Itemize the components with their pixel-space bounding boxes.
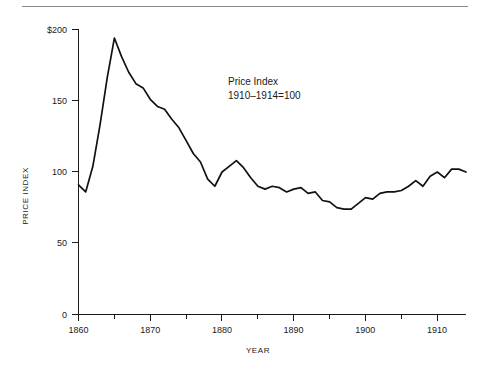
x-tick-label-1860: 1860 [68, 325, 88, 335]
y-axis-title: PRICE INDEX [21, 167, 30, 225]
annotation-line-1: Price Index [228, 76, 278, 87]
y-tick-label-50: 50 [57, 238, 67, 248]
x-tick-label-1900: 1900 [355, 325, 375, 335]
y-axis-ticks [72, 30, 79, 315]
y-tick-label-200: $200 [47, 25, 67, 35]
x-tick-label-1870: 1870 [140, 325, 160, 335]
x-axis-minor-ticks [114, 315, 401, 319]
chart-figure: $200 150 100 50 0 1860 1870 1880 1890 19… [0, 0, 490, 375]
y-tick-label-150: 150 [52, 96, 67, 106]
x-tick-label-1890: 1890 [284, 325, 304, 335]
price-index-series-line [79, 38, 467, 209]
x-axis-title: YEAR [246, 346, 270, 355]
x-tick-label-1910: 1910 [427, 325, 447, 335]
y-tick-label-100: 100 [52, 167, 67, 177]
y-tick-label-0: 0 [62, 310, 67, 320]
annotation-line-2: 1910–1914=100 [228, 90, 301, 101]
x-tick-label-1880: 1880 [212, 325, 232, 335]
price-index-line-chart: $200 150 100 50 0 1860 1870 1880 1890 19… [0, 0, 490, 375]
